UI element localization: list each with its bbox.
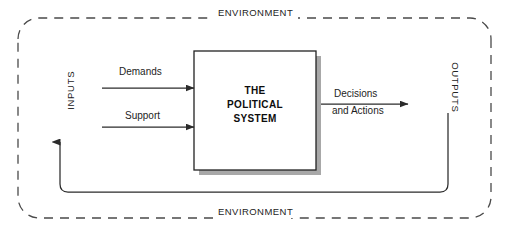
boundary-bottom-left-segment <box>18 39 213 218</box>
boundary-top-right-segment <box>291 18 491 39</box>
and-actions-label: and Actions <box>332 105 384 116</box>
political-system-diagram: ENVIRONMENT ENVIRONMENT INPUTS OUTPUTS D… <box>0 0 509 238</box>
support-label: Support <box>125 110 160 121</box>
decisions-label: Decisions <box>334 88 377 99</box>
outputs-axis-label: OUTPUTS <box>450 56 461 118</box>
system-box-title-line3: SYSTEM <box>194 112 316 126</box>
system-box-title: THE POLITICAL SYSTEM <box>194 84 316 127</box>
environment-label-top: ENVIRONMENT <box>213 8 298 19</box>
inputs-axis-label: INPUTS <box>66 63 77 117</box>
system-box-title-line2: POLITICAL <box>194 98 316 112</box>
system-box-title-line1: THE <box>194 84 316 98</box>
environment-label-bottom: ENVIRONMENT <box>213 207 298 218</box>
demands-label: Demands <box>119 66 162 77</box>
boundary-top-left-segment <box>18 18 213 39</box>
